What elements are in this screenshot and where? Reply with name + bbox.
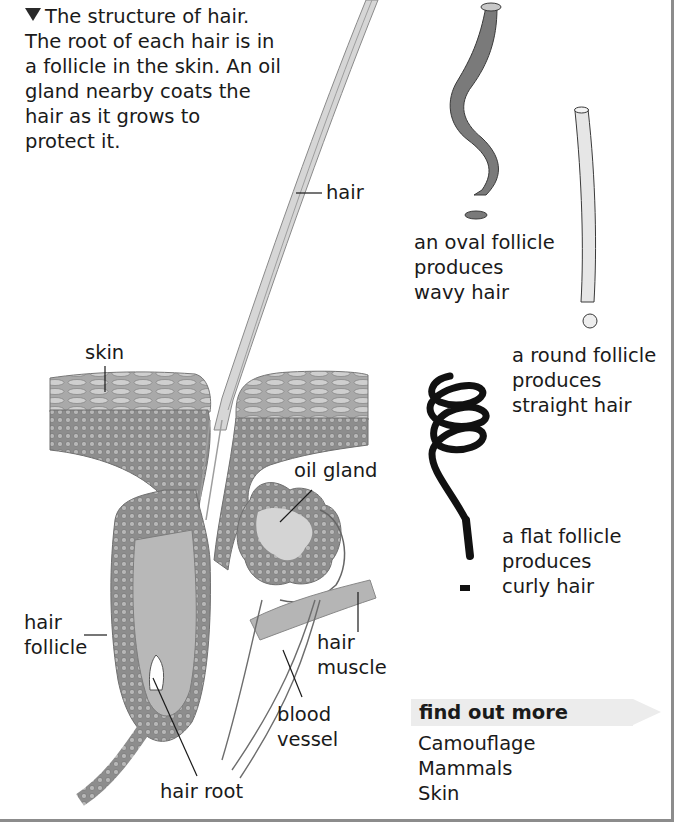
label-line: follicle bbox=[24, 635, 87, 660]
caption-line: an oval follicle bbox=[414, 230, 555, 255]
label-hair-follicle: hair follicle bbox=[24, 610, 87, 660]
label-line: vessel bbox=[277, 727, 338, 752]
oil-gland bbox=[237, 483, 344, 602]
find-out-more-link-camouflage[interactable]: Camouflage bbox=[418, 731, 656, 756]
blood-vessel-leader-line bbox=[283, 650, 302, 697]
curly-hair-illustration bbox=[430, 376, 486, 591]
label-line: hair bbox=[24, 610, 87, 635]
hair-shaft bbox=[214, 0, 378, 430]
caption-line: straight hair bbox=[512, 393, 656, 418]
straight-hair-caption: a round follicle produces straight hair bbox=[512, 343, 656, 418]
arrow-right-icon bbox=[633, 699, 661, 725]
label-skin: skin bbox=[85, 340, 124, 365]
label-hair-muscle: hair muscle bbox=[317, 630, 387, 680]
label-line: blood bbox=[277, 702, 338, 727]
curly-hair-caption: a flat follicle produces curly hair bbox=[502, 524, 621, 599]
caption-line: a flat follicle bbox=[502, 524, 621, 549]
label-blood-vessel: blood vessel bbox=[277, 702, 338, 752]
frame-border-bottom bbox=[0, 819, 674, 822]
caption-line: curly hair bbox=[502, 574, 621, 599]
find-out-more-title: find out more bbox=[419, 700, 568, 725]
frame-border-right bbox=[671, 0, 674, 822]
label-line: muscle bbox=[317, 655, 387, 680]
find-out-more-link-skin[interactable]: Skin bbox=[418, 781, 656, 806]
label-oil-gland: oil gland bbox=[294, 458, 377, 483]
find-out-more-link-mammals[interactable]: Mammals bbox=[418, 756, 656, 781]
straight-hair-illustration bbox=[575, 107, 598, 328]
wavy-hair-caption: an oval follicle produces wavy hair bbox=[414, 230, 555, 305]
caption-line: wavy hair bbox=[414, 280, 555, 305]
find-out-more: find out more Camouflage Mammals Skin bbox=[411, 699, 656, 806]
label-line: hair bbox=[317, 630, 387, 655]
label-hair-root: hair root bbox=[160, 779, 243, 804]
caption-line: produces bbox=[512, 368, 656, 393]
find-out-more-banner: find out more bbox=[411, 699, 656, 726]
caption-line: produces bbox=[502, 549, 621, 574]
wavy-hair-illustration bbox=[450, 3, 501, 219]
label-hair: hair bbox=[326, 180, 364, 205]
find-out-more-list: Camouflage Mammals Skin bbox=[411, 731, 656, 806]
caption-line: a round follicle bbox=[512, 343, 656, 368]
caption-line: produces bbox=[414, 255, 555, 280]
hair-structure-page: The structure of hair. The root of each … bbox=[0, 0, 685, 833]
